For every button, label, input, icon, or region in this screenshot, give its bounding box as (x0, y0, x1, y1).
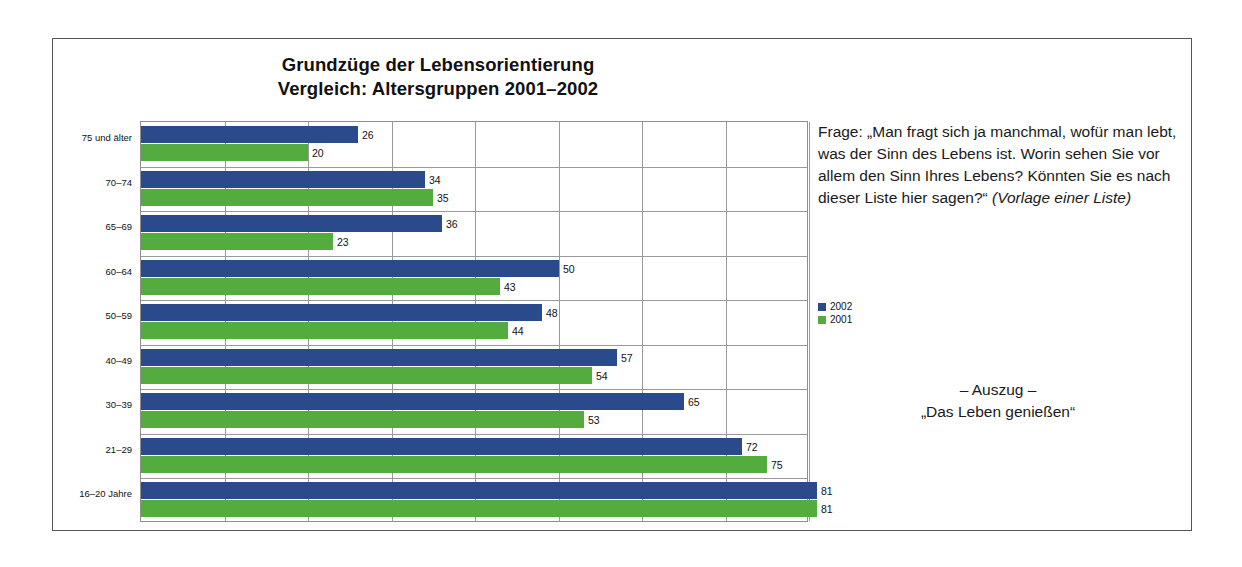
chart-bar: 75 (141, 456, 767, 473)
chart-bar: 20 (141, 144, 308, 161)
chart-category-group: 60–645043 (141, 256, 807, 301)
chart-category-label: 40–49 (106, 356, 132, 366)
chart-legend: 20022001 (818, 302, 852, 328)
figure-frame: Grundzüge der Lebensorientierung Verglei… (52, 38, 1192, 531)
chart-plot-area: 75 und älter262070–74343565–69362360–645… (140, 121, 808, 522)
chart-category-label: 60–64 (106, 267, 132, 277)
question-text: Frage: „Man fragt sich ja manchmal, wofü… (818, 121, 1178, 209)
chart-category-group: 21–297275 (141, 434, 807, 479)
question-panel: Frage: „Man fragt sich ja manchmal, wofü… (818, 121, 1178, 209)
chart-bar: 81 (141, 500, 817, 517)
chart-bar: 54 (141, 367, 592, 384)
chart-category-group: 50–594844 (141, 300, 807, 345)
chart-bar-value: 53 (588, 414, 600, 425)
legend-swatch-icon (818, 303, 826, 311)
legend-item: 2002 (818, 302, 852, 312)
chart-bar-value: 75 (771, 459, 783, 470)
chart-bar-value: 43 (504, 281, 516, 292)
chart-bar-value: 72 (746, 441, 758, 452)
chart-category-label: 70–74 (106, 178, 132, 188)
chart-bar: 35 (141, 189, 433, 206)
chart-bar-value: 20 (312, 147, 324, 158)
chart-bar: 23 (141, 233, 333, 250)
chart-bar-value: 26 (362, 129, 374, 140)
chart-category-label: 75 und älter (82, 133, 132, 143)
chart-bar: 57 (141, 349, 617, 366)
legend-swatch-icon (818, 316, 826, 324)
chart-category-label: 21–29 (106, 445, 132, 455)
chart-caption: – Auszug – „Das Leben genießen“ (818, 379, 1178, 424)
chart-bar-value: 81 (821, 485, 833, 496)
chart-category-group: 70–743435 (141, 167, 807, 212)
chart-title-line-1: Grundzüge der Lebensorientierung (53, 53, 823, 77)
chart-bar: 50 (141, 260, 559, 277)
chart-bar: 72 (141, 438, 742, 455)
chart-category-group: 75 und älter2620 (141, 122, 807, 167)
legend-label: 2001 (830, 315, 852, 325)
chart-category-label: 65–69 (106, 222, 132, 232)
chart-plot-wrapper: 75 und älter262070–74343565–69362360–645… (140, 121, 808, 522)
chart-category-group: 30–396553 (141, 389, 807, 434)
chart-bar-value: 57 (621, 352, 633, 363)
chart-bar: 53 (141, 411, 584, 428)
chart-bar-value: 36 (446, 218, 458, 229)
chart-bar-value: 48 (546, 307, 558, 318)
chart-bar: 81 (141, 482, 817, 499)
chart-bar-value: 54 (596, 370, 608, 381)
chart-bar-value: 65 (688, 396, 700, 407)
chart-title-line-2: Vergleich: Altersgruppen 2001–2002 (53, 77, 823, 101)
chart-bar: 34 (141, 171, 425, 188)
chart-bar-value: 44 (512, 325, 524, 336)
page-title: Grundzüge der Lebensorientierung Verglei… (53, 53, 823, 100)
gridline-vertical (809, 122, 810, 521)
chart-bar: 26 (141, 126, 358, 143)
chart-bar: 44 (141, 322, 508, 339)
legend-item: 2001 (818, 315, 852, 325)
chart-bar-value: 50 (563, 263, 575, 274)
chart-category-group: 40–495754 (141, 345, 807, 390)
caption-line-1: – Auszug – (818, 379, 1178, 401)
chart-category-group: 65–693623 (141, 211, 807, 256)
chart-bar: 48 (141, 304, 542, 321)
caption-line-2: „Das Leben genießen“ (818, 401, 1178, 423)
chart-bar: 43 (141, 278, 500, 295)
chart-category-label: 50–59 (106, 311, 132, 321)
chart-bar: 65 (141, 393, 684, 410)
chart-category-label: 16–20 Jahre (79, 489, 132, 499)
chart-bar: 36 (141, 215, 442, 232)
question-note: (Vorlage einer Liste) (992, 189, 1131, 206)
chart-bar-value: 23 (337, 236, 349, 247)
chart-category-group: 16–20 Jahre8181 (141, 478, 807, 523)
chart-bar-value: 34 (429, 174, 441, 185)
chart-bar-value: 35 (437, 192, 449, 203)
legend-label: 2002 (830, 302, 852, 312)
chart-category-label: 30–39 (106, 400, 132, 410)
chart-bar-value: 81 (821, 503, 833, 514)
